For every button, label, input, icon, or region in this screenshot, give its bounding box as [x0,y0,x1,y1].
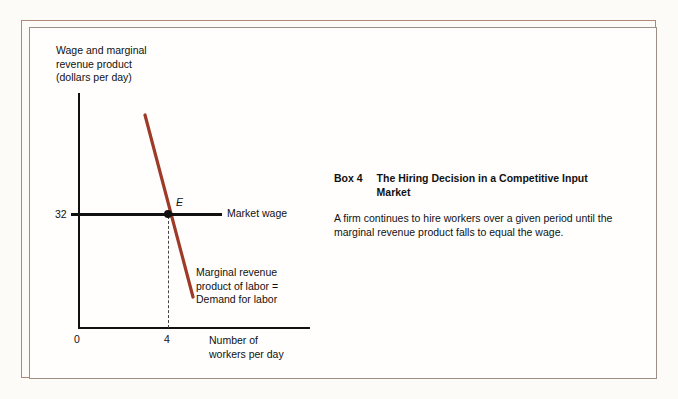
x-axis-tick-4: 4 [164,333,170,345]
figure-page: Wage and marginal revenue product (dolla… [0,0,678,399]
caption-body-text: A firm continues to hire workers over a … [334,211,624,239]
x-axis-tick-0: 0 [74,333,80,345]
marginal-revenue-product-label: Marginal revenue product of labor = Dema… [196,266,278,307]
box-title-label: The Hiring Decision in a Competitive Inp… [377,172,624,199]
market-wage-line [71,213,222,216]
box-number-label: Box 4 [334,172,363,199]
equilibrium-dropline [168,216,169,328]
equilibrium-point-label: E [176,196,183,208]
y-axis-line [78,93,80,329]
y-axis-tick-32: 32 [55,208,67,220]
market-wage-label: Market wage [227,207,287,219]
x-axis-label: Number of workers per day [209,334,284,361]
caption-heading: Box 4 The Hiring Decision in a Competiti… [334,172,624,199]
caption-panel: Box 4 The Hiring Decision in a Competiti… [334,172,624,239]
chart-area: Wage and marginal revenue product (dolla… [0,0,330,399]
x-axis-line [78,327,310,329]
equilibrium-point-marker [164,210,172,218]
y-axis-label: Wage and marginal revenue product (dolla… [56,44,147,85]
